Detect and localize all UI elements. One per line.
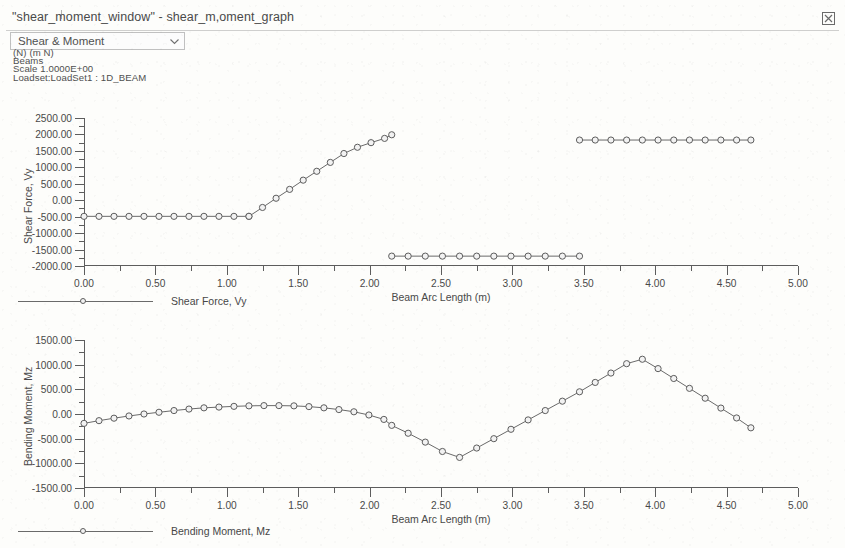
- data-point-marker: [314, 168, 320, 174]
- data-point-marker: [171, 407, 177, 413]
- data-point-marker: [201, 405, 207, 411]
- shear-force-legend: Shear Force, Vy: [18, 294, 338, 310]
- data-point-marker: [525, 253, 531, 259]
- data-point-marker: [508, 253, 514, 259]
- data-point-marker: [287, 186, 293, 192]
- view-select-value: Shear & Moment: [18, 35, 104, 47]
- data-point-marker: [389, 132, 395, 138]
- data-point-marker: [354, 144, 360, 150]
- data-point-marker: [201, 213, 207, 219]
- data-point-marker: [246, 403, 252, 409]
- data-point-marker: [231, 403, 237, 409]
- data-point-marker: [291, 403, 297, 409]
- data-point-marker: [491, 253, 497, 259]
- data-point-marker: [111, 213, 117, 219]
- data-point-marker: [456, 253, 462, 259]
- data-point-marker: [276, 403, 282, 409]
- data-point-marker: [366, 412, 372, 418]
- data-point-marker: [702, 395, 708, 401]
- data-point-marker: [81, 420, 87, 426]
- data-point-marker: [341, 150, 347, 156]
- data-point-marker: [639, 137, 645, 143]
- data-point-marker: [156, 409, 162, 415]
- data-point-marker: [405, 430, 411, 436]
- close-icon[interactable]: [822, 12, 835, 25]
- data-point-marker: [474, 445, 480, 451]
- data-point-marker: [592, 379, 598, 385]
- data-point-marker: [748, 425, 754, 431]
- legend-label: Shear Force, Vy: [171, 295, 246, 307]
- data-point-marker: [216, 404, 222, 410]
- data-point-marker: [624, 361, 630, 367]
- data-point-marker: [171, 213, 177, 219]
- data-point-marker: [671, 137, 677, 143]
- data-point-marker: [655, 366, 661, 372]
- data-point-marker: [718, 405, 724, 411]
- data-point-marker: [576, 137, 582, 143]
- series-line: [84, 359, 751, 457]
- data-point-marker: [525, 417, 531, 423]
- data-point-marker: [81, 213, 87, 219]
- data-point-marker: [156, 213, 162, 219]
- bending-moment-legend: Bending Moment, Mz: [18, 524, 358, 540]
- data-point-marker: [576, 389, 582, 395]
- data-point-marker: [368, 140, 374, 146]
- x-axis-label: Beam Arc Length (m): [391, 513, 490, 525]
- data-point-marker: [351, 409, 357, 415]
- data-point-marker: [608, 137, 614, 143]
- data-point-marker: [273, 195, 279, 201]
- bending-moment-chart: -1500.00-1000.00-500.000.00500.001000.00…: [0, 330, 845, 495]
- data-point-marker: [327, 159, 333, 165]
- shear-moment-window: "shear_moment_window" - shear_m,oment_gr…: [0, 0, 845, 548]
- data-point-marker: [542, 407, 548, 413]
- data-point-marker: [141, 213, 147, 219]
- shear-force-chart: -2000.00-1500.00-1000.00-500.000.00500.0…: [0, 108, 845, 278]
- data-point-marker: [456, 454, 462, 460]
- legend-marker-sample: [80, 298, 86, 304]
- data-point-marker: [126, 213, 132, 219]
- data-point-marker: [592, 137, 598, 143]
- data-point-marker: [141, 411, 147, 417]
- titlebar-divider: [6, 30, 839, 31]
- series-layer: [0, 330, 845, 505]
- series-layer: [0, 108, 845, 283]
- data-point-marker: [96, 418, 102, 424]
- plot-annotation-block: (N) (m N) Beams Scale 1.0000E+00 Loadset…: [13, 49, 146, 82]
- data-point-marker: [186, 213, 192, 219]
- data-point-marker: [734, 137, 740, 143]
- data-point-marker: [96, 213, 102, 219]
- data-point-marker: [559, 398, 565, 404]
- data-point-marker: [422, 439, 428, 445]
- data-point-marker: [321, 405, 327, 411]
- data-point-marker: [439, 448, 445, 454]
- window-title: "shear_moment_window" - shear_m,oment_gr…: [12, 10, 294, 24]
- data-point-marker: [624, 137, 630, 143]
- data-point-marker: [300, 177, 306, 183]
- data-point-marker: [702, 137, 708, 143]
- data-point-marker: [422, 253, 428, 259]
- data-point-marker: [671, 375, 677, 381]
- data-point-marker: [508, 426, 514, 432]
- data-point-marker: [542, 253, 548, 259]
- data-point-marker: [126, 413, 132, 419]
- data-point-marker: [336, 406, 342, 412]
- x-axis-label: Beam Arc Length (m): [391, 291, 490, 303]
- data-point-marker: [686, 137, 692, 143]
- data-point-marker: [491, 436, 497, 442]
- data-point-marker: [439, 253, 445, 259]
- data-point-marker: [389, 422, 395, 428]
- data-point-marker: [639, 356, 645, 362]
- legend-label: Bending Moment, Mz: [171, 525, 270, 537]
- data-point-marker: [246, 213, 252, 219]
- data-point-marker: [576, 253, 582, 259]
- data-point-marker: [734, 415, 740, 421]
- legend-marker-sample: [80, 528, 86, 534]
- data-point-marker: [216, 213, 222, 219]
- data-point-marker: [748, 137, 754, 143]
- data-point-marker: [559, 253, 565, 259]
- data-point-marker: [111, 415, 117, 421]
- data-point-marker: [186, 406, 192, 412]
- data-point-marker: [474, 253, 480, 259]
- chevron-down-icon[interactable]: [170, 38, 179, 45]
- data-point-marker: [718, 137, 724, 143]
